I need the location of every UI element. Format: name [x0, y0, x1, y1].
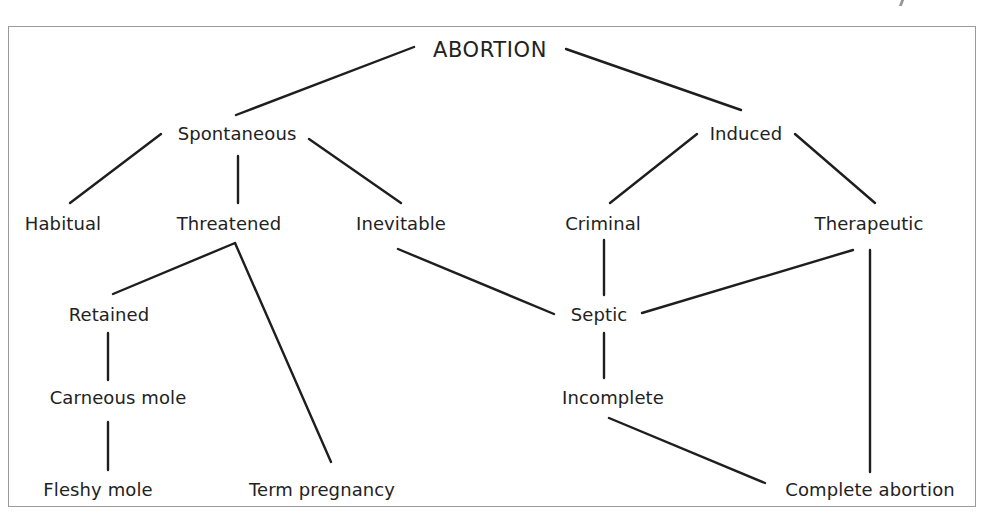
- node-criminal: Criminal: [565, 213, 641, 235]
- diagram-edges: [0, 0, 983, 516]
- edge-threatened-term-pregnancy: [235, 243, 331, 462]
- node-term-pregnancy: Term pregnancy: [249, 479, 395, 501]
- node-inevitable: Inevitable: [356, 213, 446, 235]
- node-therapeutic: Therapeutic: [815, 213, 924, 235]
- node-complete-abortion: Complete abortion: [785, 479, 955, 501]
- edge-induced-therapeutic: [795, 134, 875, 203]
- node-retained: Retained: [69, 304, 150, 326]
- node-carneous-mole: Carneous mole: [50, 387, 187, 409]
- node-habitual: Habitual: [25, 213, 101, 235]
- node-threatened: Threatened: [177, 213, 282, 235]
- edge-threatened-retained: [113, 243, 235, 294]
- node-incomplete: Incomplete: [562, 387, 664, 409]
- node-septic: Septic: [571, 304, 627, 326]
- edge-incomplete-complete-abortion: [609, 418, 765, 483]
- node-abortion: ABORTION: [433, 39, 547, 61]
- edge-inevitable-septic: [398, 249, 554, 314]
- node-fleshy-mole: Fleshy mole: [43, 479, 152, 501]
- edge-abortion-induced: [566, 49, 741, 110]
- edge-therapeutic-septic: [642, 250, 853, 313]
- edge-abortion-spontaneous: [236, 47, 414, 115]
- node-induced: Induced: [710, 123, 783, 145]
- edge-induced-criminal: [610, 134, 697, 203]
- edge-spontaneous-habitual: [70, 134, 161, 203]
- node-spontaneous: Spontaneous: [178, 123, 297, 145]
- edge-spontaneous-inevitable: [309, 139, 401, 203]
